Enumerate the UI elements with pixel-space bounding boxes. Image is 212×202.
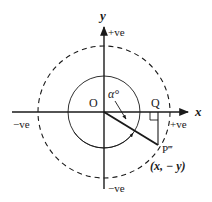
x-negative-label: −ve [13, 118, 30, 130]
unit-circle-diagram: y +ve −ve x +ve −ve O Q α° P‴ (x, − y) [0, 0, 212, 202]
origin-label: O [89, 96, 98, 110]
y-negative-label: −ve [108, 182, 125, 194]
x-positive-label: +ve [170, 118, 187, 130]
angle-label: α° [108, 87, 119, 101]
point-label: P‴ [162, 143, 173, 155]
foot-label-q: Q [151, 96, 160, 110]
x-axis-label: x [194, 104, 202, 119]
y-positive-label: +ve [108, 26, 125, 38]
point-coordinates: (x, − y) [150, 159, 186, 173]
angle-pointer-arrow [115, 101, 126, 119]
y-axis-label: y [98, 8, 106, 23]
right-angle-marker [150, 112, 158, 120]
